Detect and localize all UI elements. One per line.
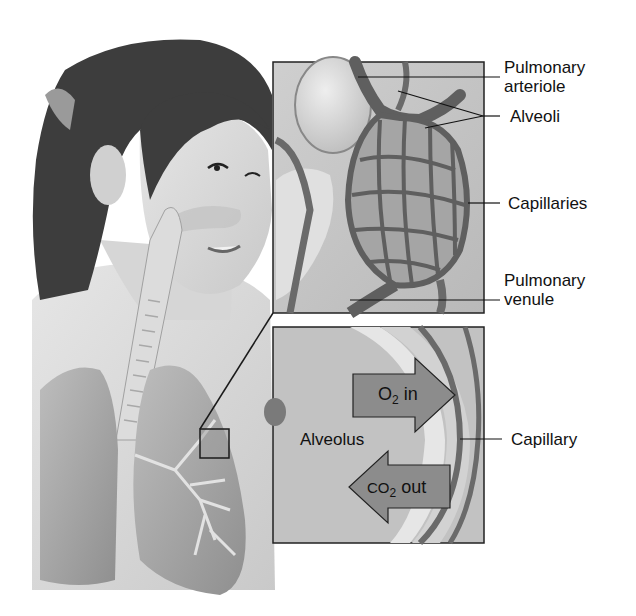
direction-text: in <box>404 384 418 404</box>
label-line: arteriole <box>504 77 585 96</box>
upper-inset-box <box>273 57 500 313</box>
direction-text: out <box>401 477 426 497</box>
lung-inset-marker <box>200 429 229 458</box>
subscript-text: 2 <box>392 393 399 407</box>
label-alveoli: Alveoli <box>510 107 560 126</box>
molecule-text: CO <box>367 479 390 496</box>
molecule-text: O <box>378 384 392 404</box>
label-capillaries: Capillaries <box>508 194 587 213</box>
co2-out-label: CO2 out <box>367 477 426 500</box>
label-line: venule <box>504 290 585 309</box>
label-pulmonary-venule: Pulmonary venule <box>504 271 585 309</box>
o2-in-label: O2 in <box>378 384 418 407</box>
label-capillary: Capillary <box>511 430 577 449</box>
label-pulmonary-arteriole: Pulmonary arteriole <box>504 58 585 96</box>
label-alveolus: Alveolus <box>300 430 364 449</box>
lung-left-side <box>40 368 118 586</box>
subscript-text: 2 <box>390 486 397 500</box>
label-line: Pulmonary <box>504 271 585 290</box>
label-line: Pulmonary <box>504 58 585 77</box>
